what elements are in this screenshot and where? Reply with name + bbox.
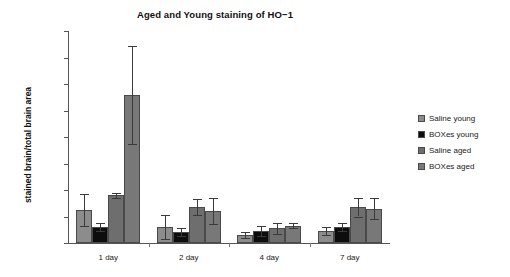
error-bar-cap <box>257 226 266 227</box>
legend-item-label: Saline aged <box>429 146 471 155</box>
legend-item-label: Saline young <box>429 114 475 123</box>
error-bar-cap <box>273 234 282 235</box>
y-axis-tick <box>64 31 68 32</box>
error-bar-cap <box>354 198 363 199</box>
legend-item-label: BOXes aged <box>429 162 474 171</box>
legend-item: Saline young <box>418 110 510 126</box>
error-bar-cap <box>370 219 379 220</box>
error-bar-stem <box>277 223 278 234</box>
error-bar-cap <box>370 198 379 199</box>
y-axis-tick <box>64 164 68 165</box>
y-axis-tick <box>64 58 68 59</box>
error-bar-cap <box>112 193 121 194</box>
error-bar-stem <box>100 223 101 231</box>
error-bar-stem <box>358 198 359 217</box>
error-bar-stem <box>197 199 198 215</box>
error-bar-cap <box>80 194 89 195</box>
error-bar-cap <box>193 199 202 200</box>
error-bar-cap <box>128 144 137 145</box>
error-bar-cap <box>241 238 250 239</box>
error-bar-cap <box>209 198 218 199</box>
chart-figure: Aged and Young staining of HO−1 stained … <box>0 0 510 277</box>
error-bar-cap <box>257 236 266 237</box>
y-axis-tick <box>64 217 68 218</box>
legend-item: BOXes aged <box>418 158 510 174</box>
error-bar-cap <box>289 223 298 224</box>
error-bar-cap <box>112 198 121 199</box>
error-bar-cap <box>96 223 105 224</box>
error-bar-cap <box>354 217 363 218</box>
x-axis-group-label: 1 day <box>73 253 143 262</box>
error-bar-stem <box>342 223 343 231</box>
legend-swatch-icon <box>418 115 425 122</box>
legend-swatch-icon <box>418 131 425 138</box>
error-bar-cap <box>177 228 186 229</box>
error-bar-stem <box>181 228 182 236</box>
x-axis-group-label: 7 day <box>315 253 385 262</box>
x-axis-group-label: 2 day <box>154 253 224 262</box>
error-bar-stem <box>132 46 133 144</box>
error-bar-stem <box>374 198 375 219</box>
error-bar-cap <box>96 231 105 232</box>
error-bar-stem <box>165 215 166 239</box>
y-axis-line <box>68 31 69 243</box>
y-axis-tick <box>64 111 68 112</box>
error-bar-cap <box>177 236 186 237</box>
error-bar-stem <box>326 227 327 235</box>
chart-legend: Saline youngBOXes youngSaline agedBOXes … <box>418 110 510 174</box>
x-axis-tick <box>310 243 311 247</box>
error-bar-cap <box>338 223 347 224</box>
y-axis-title: stained brain/total brain area <box>23 55 33 235</box>
error-bar-cap <box>128 46 137 47</box>
error-bar-cap <box>322 235 331 236</box>
y-axis-tick <box>64 84 68 85</box>
plot-area: 00.0020.0040.0060.0080.010.0120.0140.016… <box>68 31 390 243</box>
error-bar-cap <box>80 226 89 227</box>
error-bar-cap <box>161 215 170 216</box>
error-bar-cap <box>241 232 250 233</box>
legend-item-label: BOXes young <box>429 130 478 139</box>
x-axis-group-label: 4 day <box>234 253 304 262</box>
legend-item: Saline aged <box>418 142 510 158</box>
y-axis-tick <box>64 243 68 244</box>
error-bar-cap <box>273 223 282 224</box>
error-bar-cap <box>322 227 331 228</box>
error-bar-cap <box>193 215 202 216</box>
legend-swatch-icon <box>418 163 425 170</box>
legend-swatch-icon <box>418 147 425 154</box>
error-bar-stem <box>261 226 262 237</box>
chart-title: Aged and Young staining of HO−1 <box>0 9 430 20</box>
x-axis-tick <box>149 243 150 247</box>
error-bar-stem <box>213 198 214 225</box>
y-axis-tick <box>64 190 68 191</box>
error-bar-cap <box>209 224 218 225</box>
error-bar-cap <box>289 228 298 229</box>
x-axis-tick <box>229 243 230 247</box>
error-bar-cap <box>161 239 170 240</box>
error-bar-stem <box>84 194 85 226</box>
legend-item: BOXes young <box>418 126 510 142</box>
y-axis-tick <box>64 137 68 138</box>
error-bar-cap <box>338 231 347 232</box>
bar <box>108 195 124 243</box>
